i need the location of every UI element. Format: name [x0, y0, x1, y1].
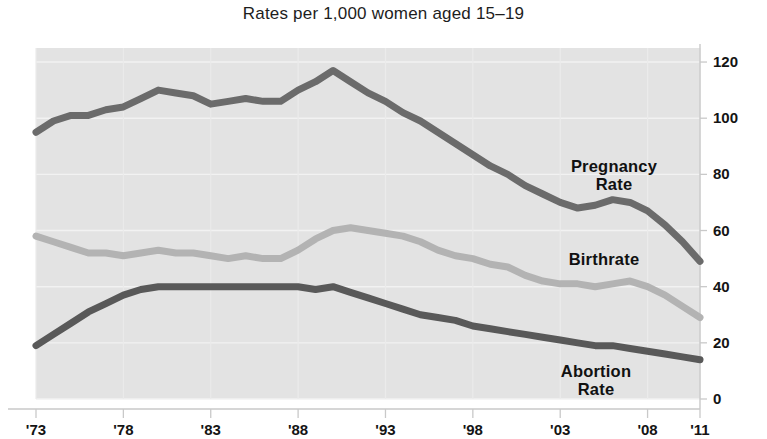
x-tick-label: '83: [183, 421, 239, 438]
x-tick-label: '08: [620, 421, 676, 438]
y-tick-label: 40: [713, 278, 730, 295]
y-tick-label: 120: [713, 53, 738, 70]
x-tick-label: '11: [672, 421, 728, 438]
series-label-birthrate: Birthrate: [529, 250, 679, 268]
x-tick-label: '73: [8, 421, 64, 438]
y-tick-label: 20: [713, 334, 730, 351]
x-tick-label: '88: [270, 421, 326, 438]
x-tick-label: '98: [445, 421, 501, 438]
plot-area: 020406080100120 '73'78'83'88'93'98'03'08…: [0, 44, 767, 439]
chart-figure: Rates per 1,000 women aged 15–19 0204060…: [0, 0, 767, 439]
y-tick-label: 60: [713, 222, 730, 239]
chart-title: Rates per 1,000 women aged 15–19: [0, 4, 767, 24]
y-tick-label: 100: [713, 109, 738, 126]
y-tick-label: 80: [713, 165, 730, 182]
x-tick-label: '03: [532, 421, 588, 438]
series-label-pregnancy-rate: Pregnancy Rate: [539, 157, 689, 194]
x-tick-label: '93: [357, 421, 413, 438]
y-tick-label: 0: [713, 390, 721, 407]
x-tick-label: '78: [95, 421, 151, 438]
series-label-abortion-rate: Abortion Rate: [521, 362, 671, 399]
